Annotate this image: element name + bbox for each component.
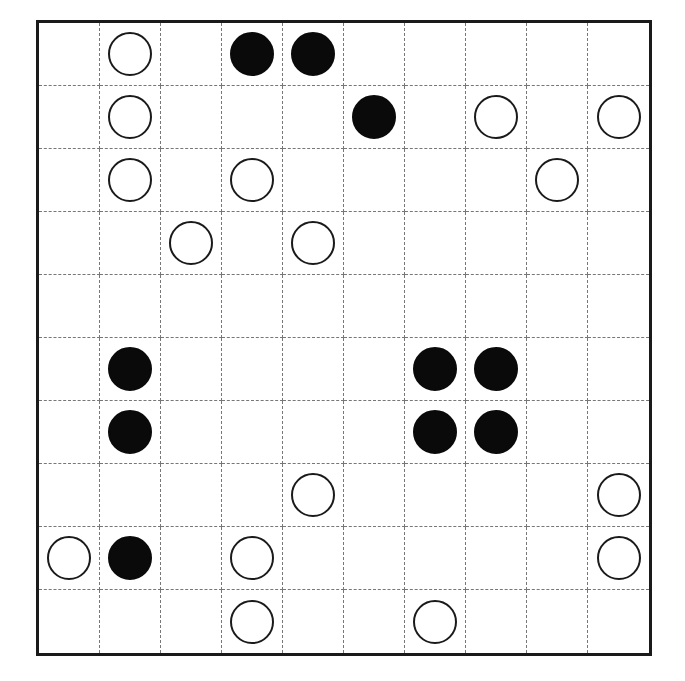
grid-cell-r5-c3[interactable] (222, 338, 283, 401)
grid-cell-r6-c8[interactable] (527, 401, 588, 464)
grid-cell-r8-c4[interactable] (283, 527, 344, 590)
grid-cell-r1-c4[interactable] (283, 86, 344, 149)
grid-cell-r1-c0[interactable] (39, 86, 100, 149)
grid-cell-r7-c1[interactable] (100, 464, 161, 527)
grid-cell-r9-c9[interactable] (588, 590, 649, 653)
grid-cell-r5-c9[interactable] (588, 338, 649, 401)
grid-cell-r0-c2[interactable] (161, 23, 222, 86)
grid-cell-r0-c1[interactable] (100, 23, 161, 86)
grid-cell-r9-c4[interactable] (283, 590, 344, 653)
grid-cell-r9-c8[interactable] (527, 590, 588, 653)
grid-cell-r1-c9[interactable] (588, 86, 649, 149)
grid-cell-r2-c7[interactable] (466, 149, 527, 212)
grid-cell-r1-c7[interactable] (466, 86, 527, 149)
grid-cell-r5-c1[interactable] (100, 338, 161, 401)
grid-cell-r1-c3[interactable] (222, 86, 283, 149)
grid-cell-r0-c8[interactable] (527, 23, 588, 86)
grid-cell-r2-c1[interactable] (100, 149, 161, 212)
grid-cell-r8-c5[interactable] (344, 527, 405, 590)
grid-cell-r6-c1[interactable] (100, 401, 161, 464)
grid-cell-r4-c0[interactable] (39, 275, 100, 338)
grid-cell-r8-c6[interactable] (405, 527, 466, 590)
grid-cell-r0-c3[interactable] (222, 23, 283, 86)
grid-cell-r0-c7[interactable] (466, 23, 527, 86)
grid-cell-r3-c0[interactable] (39, 212, 100, 275)
grid-cell-r3-c4[interactable] (283, 212, 344, 275)
grid-cell-r6-c2[interactable] (161, 401, 222, 464)
grid-cell-r9-c6[interactable] (405, 590, 466, 653)
grid-cell-r4-c1[interactable] (100, 275, 161, 338)
grid-cell-r4-c6[interactable] (405, 275, 466, 338)
grid-cell-r3-c1[interactable] (100, 212, 161, 275)
grid-cell-r4-c2[interactable] (161, 275, 222, 338)
grid-cell-r5-c6[interactable] (405, 338, 466, 401)
grid-cell-r6-c5[interactable] (344, 401, 405, 464)
grid-cell-r9-c7[interactable] (466, 590, 527, 653)
grid-cell-r0-c6[interactable] (405, 23, 466, 86)
grid-cell-r5-c0[interactable] (39, 338, 100, 401)
grid-cell-r5-c2[interactable] (161, 338, 222, 401)
grid-cell-r5-c4[interactable] (283, 338, 344, 401)
grid-cell-r6-c9[interactable] (588, 401, 649, 464)
grid-cell-r8-c7[interactable] (466, 527, 527, 590)
grid-cell-r5-c8[interactable] (527, 338, 588, 401)
grid-cell-r8-c1[interactable] (100, 527, 161, 590)
grid-cell-r2-c6[interactable] (405, 149, 466, 212)
grid-cell-r3-c6[interactable] (405, 212, 466, 275)
grid-cell-r3-c8[interactable] (527, 212, 588, 275)
grid-cell-r7-c8[interactable] (527, 464, 588, 527)
grid-cell-r6-c0[interactable] (39, 401, 100, 464)
grid-cell-r7-c3[interactable] (222, 464, 283, 527)
grid-cell-r4-c3[interactable] (222, 275, 283, 338)
grid-cell-r8-c9[interactable] (588, 527, 649, 590)
grid-cell-r2-c0[interactable] (39, 149, 100, 212)
grid-cell-r2-c4[interactable] (283, 149, 344, 212)
grid-cell-r7-c5[interactable] (344, 464, 405, 527)
grid-cell-r9-c3[interactable] (222, 590, 283, 653)
grid-cell-r7-c2[interactable] (161, 464, 222, 527)
grid-cell-r5-c5[interactable] (344, 338, 405, 401)
grid-cell-r1-c1[interactable] (100, 86, 161, 149)
grid-cell-r1-c5[interactable] (344, 86, 405, 149)
grid-cell-r6-c7[interactable] (466, 401, 527, 464)
grid-cell-r7-c0[interactable] (39, 464, 100, 527)
grid-cell-r7-c4[interactable] (283, 464, 344, 527)
grid-cell-r2-c2[interactable] (161, 149, 222, 212)
grid-cell-r3-c5[interactable] (344, 212, 405, 275)
grid-cell-r6-c3[interactable] (222, 401, 283, 464)
grid-cell-r8-c2[interactable] (161, 527, 222, 590)
grid-cell-r1-c8[interactable] (527, 86, 588, 149)
grid-cell-r6-c6[interactable] (405, 401, 466, 464)
grid-cell-r9-c0[interactable] (39, 590, 100, 653)
grid-cell-r0-c9[interactable] (588, 23, 649, 86)
grid-cell-r4-c9[interactable] (588, 275, 649, 338)
grid-cell-r9-c5[interactable] (344, 590, 405, 653)
grid-cell-r2-c3[interactable] (222, 149, 283, 212)
grid-cell-r8-c0[interactable] (39, 527, 100, 590)
grid-cell-r9-c1[interactable] (100, 590, 161, 653)
grid-cell-r4-c8[interactable] (527, 275, 588, 338)
grid-cell-r5-c7[interactable] (466, 338, 527, 401)
grid-cell-r4-c5[interactable] (344, 275, 405, 338)
grid-cell-r8-c8[interactable] (527, 527, 588, 590)
grid-cell-r0-c5[interactable] (344, 23, 405, 86)
grid-cell-r2-c9[interactable] (588, 149, 649, 212)
grid-cell-r3-c7[interactable] (466, 212, 527, 275)
grid-cell-r8-c3[interactable] (222, 527, 283, 590)
grid-cell-r4-c4[interactable] (283, 275, 344, 338)
grid-cell-r3-c2[interactable] (161, 212, 222, 275)
grid-cell-r2-c5[interactable] (344, 149, 405, 212)
grid-cell-r0-c4[interactable] (283, 23, 344, 86)
grid-cell-r3-c3[interactable] (222, 212, 283, 275)
grid-cell-r2-c8[interactable] (527, 149, 588, 212)
grid-cell-r7-c7[interactable] (466, 464, 527, 527)
grid-cell-r4-c7[interactable] (466, 275, 527, 338)
grid-cell-r0-c0[interactable] (39, 23, 100, 86)
grid-cell-r6-c4[interactable] (283, 401, 344, 464)
grid-cell-r7-c9[interactable] (588, 464, 649, 527)
grid-cell-r9-c2[interactable] (161, 590, 222, 653)
grid-cell-r1-c6[interactable] (405, 86, 466, 149)
grid-cell-r3-c9[interactable] (588, 212, 649, 275)
grid-cell-r1-c2[interactable] (161, 86, 222, 149)
grid-cell-r7-c6[interactable] (405, 464, 466, 527)
